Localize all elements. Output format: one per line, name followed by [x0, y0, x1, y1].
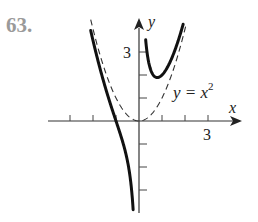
curve-right-branch — [146, 24, 183, 77]
y-axis-label: y — [146, 13, 156, 31]
y-tick-label-3: 3 — [123, 44, 131, 61]
graph: y x 3 3 y = x2 — [0, 0, 258, 222]
parabola-label-exponent: 2 — [208, 80, 214, 92]
parabola-label: y = x2 — [171, 80, 214, 102]
parabola-label-text: y = x — [171, 83, 209, 102]
axes — [48, 28, 234, 213]
x-axis-label: x — [228, 99, 236, 116]
x-tick-label-3: 3 — [203, 126, 211, 143]
